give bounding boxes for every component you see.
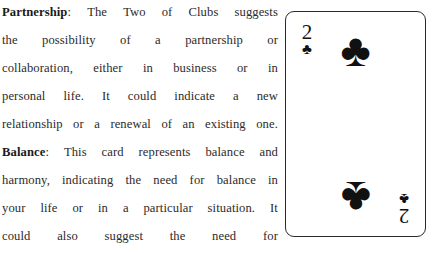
- club-icon: ♣: [332, 174, 380, 220]
- word: particular: [143, 198, 192, 218]
- word: a: [233, 86, 239, 106]
- word: a: [94, 114, 100, 134]
- word: the: [170, 226, 186, 246]
- word: suggest: [105, 226, 143, 246]
- text-line: your life or in a particular situation. …: [2, 198, 278, 218]
- word: in: [98, 198, 108, 218]
- word: or: [73, 114, 84, 134]
- word: card: [102, 142, 124, 162]
- word: existing: [205, 114, 246, 134]
- word: of: [162, 2, 173, 22]
- word: Two: [123, 2, 146, 22]
- word: in: [268, 58, 278, 78]
- word: and: [259, 142, 277, 162]
- word: indicating: [62, 170, 113, 190]
- word: The: [87, 2, 107, 22]
- word: one.: [256, 114, 278, 134]
- word: possibility: [42, 30, 96, 50]
- word: also: [57, 226, 78, 246]
- word: a: [155, 30, 161, 50]
- text-line: collaboration, either in business or in: [2, 58, 278, 78]
- word: indicate: [174, 86, 215, 106]
- word: It: [270, 198, 278, 218]
- word: This: [64, 142, 87, 162]
- club-icon: ♣: [294, 42, 320, 57]
- word: situation.: [208, 198, 256, 218]
- word: suggests: [234, 2, 277, 22]
- lead-in-separator: :: [45, 145, 49, 159]
- club-icon: ♣: [391, 191, 417, 206]
- card-rank-label: 2: [391, 205, 417, 226]
- word: your: [2, 198, 26, 218]
- word: could: [2, 226, 30, 246]
- card-rank-label: 2: [294, 22, 320, 43]
- word: a: [123, 198, 129, 218]
- word: business: [173, 58, 216, 78]
- text-line: harmony, indicating the need for balance…: [2, 170, 278, 190]
- text-line: Balance: This card represents balance an…: [2, 142, 278, 162]
- word: renewal: [110, 114, 151, 134]
- word: in: [268, 170, 278, 190]
- word: or: [267, 30, 278, 50]
- lead-in-separator: :: [67, 5, 71, 19]
- word: life: [40, 198, 57, 218]
- word: new: [257, 86, 278, 106]
- paragraph-lead-in-balance: Balance: [2, 145, 45, 159]
- text-line: the possibility of a partnership or: [2, 30, 278, 50]
- word: for: [263, 226, 278, 246]
- text-line: Partnership: The Two of Clubs suggests: [2, 2, 278, 22]
- card-index-top-left: 2 ♣: [294, 22, 320, 57]
- word: harmony,: [2, 170, 50, 190]
- word: balance: [217, 170, 256, 190]
- text-line: relationship or a renewal of an existing…: [2, 114, 278, 134]
- word: of: [120, 30, 131, 50]
- word: for: [190, 170, 205, 190]
- interpretation-text-column: Partnership: The Two of Clubs suggests t…: [2, 0, 278, 253]
- word: of: [161, 114, 172, 134]
- playing-card-two-of-clubs: 2 ♣ ♣ ♣ 2 ♣: [285, 11, 426, 237]
- word: partnership: [185, 30, 243, 50]
- paragraph-lead-in-partnership: Partnership: [2, 5, 67, 19]
- word: need: [212, 226, 236, 246]
- word: the: [126, 170, 142, 190]
- word: could: [128, 86, 156, 106]
- word: an: [183, 114, 195, 134]
- word: need: [153, 170, 177, 190]
- word: Clubs: [189, 2, 219, 22]
- word: either: [93, 58, 122, 78]
- text-line: personal life. It could indicate a new: [2, 86, 278, 106]
- card-index-bottom-right: 2 ♣: [391, 191, 417, 226]
- word: the: [2, 30, 18, 50]
- word: or: [237, 58, 248, 78]
- club-icon: ♣: [332, 28, 380, 74]
- word: in: [143, 58, 153, 78]
- page-root: Partnership: The Two of Clubs suggests t…: [0, 0, 440, 253]
- word: represents: [139, 142, 191, 162]
- word: personal: [2, 86, 45, 106]
- clipped-text-line: [2, 246, 278, 253]
- text-line: could also suggest the need for: [2, 226, 278, 246]
- word: or: [72, 198, 83, 218]
- word: It: [102, 86, 110, 106]
- word: collaboration,: [2, 58, 73, 78]
- word: relationship: [2, 114, 63, 134]
- word: balance: [205, 142, 244, 162]
- word: life.: [63, 86, 83, 106]
